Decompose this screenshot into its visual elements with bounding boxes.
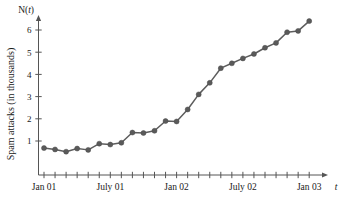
- data-point-marker: [251, 51, 256, 56]
- y-tick-label: 6: [27, 25, 32, 35]
- data-point-marker: [307, 19, 312, 24]
- spam-attacks-chart: 123456Jan 01July 01Jan 02July 02Jan 03N(…: [0, 0, 344, 208]
- data-point-marker: [296, 28, 301, 33]
- y-tick-label: 3: [27, 92, 32, 102]
- data-point-marker: [64, 149, 69, 154]
- data-point-marker: [53, 147, 58, 152]
- data-point-marker: [108, 142, 113, 147]
- data-point-marker: [152, 128, 157, 133]
- data-point-marker: [240, 56, 245, 61]
- x-axis-arrow-icon: [322, 172, 328, 177]
- data-point-marker: [42, 146, 47, 151]
- data-point-marker: [196, 92, 201, 97]
- y-axis-title: Spam attacks (in thousands): [5, 48, 17, 160]
- data-point-marker: [285, 30, 290, 35]
- data-point-marker: [229, 61, 234, 66]
- x-axis-tick-label: Jan 03: [297, 182, 322, 192]
- x-axis-tick-label: Jan 01: [32, 182, 57, 192]
- data-point-marker: [207, 80, 212, 85]
- x-axis-tick-label: Jan 02: [164, 182, 189, 192]
- y-tick-label: 5: [27, 48, 32, 58]
- y-axis-arrow-icon: [36, 15, 41, 21]
- chart-canvas: 123456Jan 01July 01Jan 02July 02Jan 03N(…: [0, 0, 344, 208]
- y-axis-name-label: N(t): [18, 5, 34, 16]
- x-axis-tick-label: July 02: [229, 182, 257, 192]
- data-point-marker: [274, 40, 279, 45]
- data-point-marker: [86, 147, 91, 152]
- y-tick-label: 4: [27, 70, 32, 80]
- x-axis-name-label: t: [335, 182, 338, 192]
- data-point-marker: [174, 119, 179, 124]
- x-axis-tick-label: July 01: [96, 182, 124, 192]
- data-point-marker: [141, 131, 146, 136]
- data-point-marker: [97, 141, 102, 146]
- data-point-marker: [218, 66, 223, 71]
- data-point-marker: [119, 140, 124, 145]
- data-point-marker: [75, 146, 80, 151]
- data-point-marker: [263, 45, 268, 50]
- data-point-marker: [130, 130, 135, 135]
- y-tick-label: 2: [27, 114, 32, 124]
- series-line-spam-attacks: [44, 21, 309, 152]
- data-point-marker: [185, 107, 190, 112]
- data-point-marker: [163, 119, 168, 124]
- y-tick-label: 1: [27, 136, 32, 146]
